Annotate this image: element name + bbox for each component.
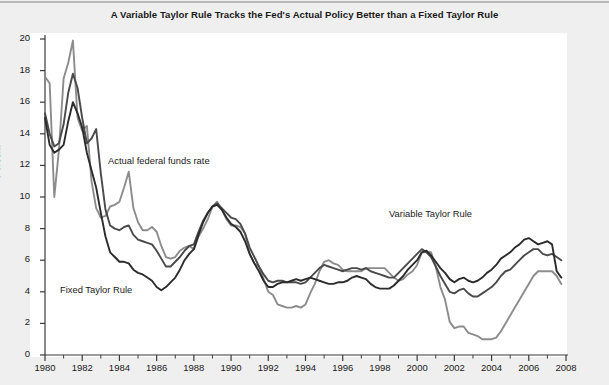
x-tick-label: 2000 <box>397 362 437 373</box>
x-tick-label: 1980 <box>25 362 65 373</box>
series-line <box>45 74 561 297</box>
series-line <box>45 102 561 290</box>
x-tick-label: 1982 <box>62 362 102 373</box>
x-tick-label: 1988 <box>174 362 214 373</box>
y-tick-label: 14 <box>8 127 30 138</box>
annotation-variable-taylor-rule: Variable Taylor Rule <box>389 208 472 219</box>
x-tick-label: 1990 <box>211 362 251 373</box>
x-tick-label: 2006 <box>509 362 549 373</box>
x-tick-label: 1998 <box>360 362 400 373</box>
y-tick-label: 8 <box>8 222 30 233</box>
y-tick-label: 6 <box>8 253 30 264</box>
annotation-fixed-taylor-rule: Fixed Taylor Rule <box>60 284 132 295</box>
x-tick-label: 1996 <box>323 362 363 373</box>
chart-svg <box>0 0 609 385</box>
y-tick-label: 16 <box>8 95 30 106</box>
y-tick-label: 10 <box>8 190 30 201</box>
x-tick-label: 1994 <box>286 362 326 373</box>
x-tick-label: 1986 <box>137 362 177 373</box>
annotation-actual-federal-funds-rate: Actual federal funds rate <box>108 155 210 166</box>
x-tick-label: 1992 <box>248 362 288 373</box>
y-tick-label: 18 <box>8 64 30 75</box>
x-tick-label: 2002 <box>434 362 474 373</box>
y-tick-label: 0 <box>8 348 30 359</box>
y-tick-label: 4 <box>8 285 30 296</box>
x-tick-label: 1984 <box>99 362 139 373</box>
x-tick-label: 2004 <box>472 362 512 373</box>
axis-lines <box>40 35 568 361</box>
y-tick-label: 12 <box>8 158 30 169</box>
y-tick-label: 2 <box>8 316 30 327</box>
y-tick-label: 20 <box>8 32 30 43</box>
chart-page: A Variable Taylor Rule Tracks the Fed's … <box>0 0 609 385</box>
x-tick-label: 2008 <box>546 362 586 373</box>
